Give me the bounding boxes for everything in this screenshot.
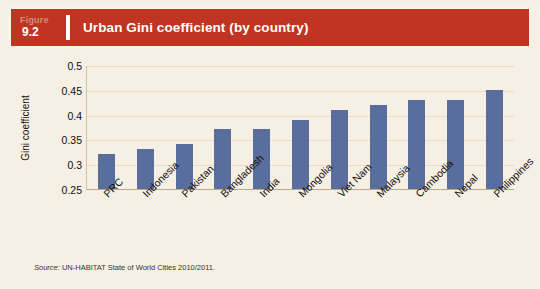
- bar[interactable]: [447, 100, 464, 189]
- figure-title: Urban Gini coefficient (by country): [83, 20, 309, 35]
- figure-banner: Figure 9.2 Urban Gini coefficient (by co…: [11, 9, 529, 46]
- chart-area: Gini coefficient 0.50.450.40.350.30.25 P…: [8, 50, 532, 282]
- bar[interactable]: [370, 105, 387, 189]
- y-axis-tick: 0.25: [52, 184, 82, 196]
- bar-slot: [87, 66, 126, 189]
- y-axis-tick: 0.45: [52, 85, 82, 97]
- figure-number: 9.2: [22, 26, 39, 39]
- x-axis-tick-labels: PRCIndonesiaPakistanBangladeshIndiaMongo…: [86, 191, 540, 261]
- bar[interactable]: [408, 100, 425, 189]
- bar[interactable]: [486, 90, 503, 189]
- y-axis-tick: 0.3: [52, 159, 82, 171]
- source-text: UN-HABITAT State of World Cities 2010/20…: [60, 263, 215, 272]
- bar[interactable]: [331, 110, 348, 189]
- source-note: Source: UN-HABITAT State of World Cities…: [34, 263, 215, 272]
- bar-slot: [475, 66, 514, 189]
- source-lead: Source:: [34, 263, 60, 272]
- banner-divider: [66, 15, 70, 40]
- figure-label: Figure: [20, 16, 49, 25]
- bar[interactable]: [292, 120, 309, 189]
- y-axis-title: Gini coefficient: [20, 66, 34, 190]
- bar-slot: [281, 66, 320, 189]
- y-axis-tick: 0.35: [52, 134, 82, 146]
- figure-banner-wrapper: Figure 9.2 Urban Gini coefficient (by co…: [8, 7, 532, 47]
- figure-number-block: Figure 9.2: [20, 16, 66, 39]
- y-axis-tick-labels: 0.50.450.40.350.30.25: [52, 66, 82, 190]
- y-axis-tick: 0.5: [52, 60, 82, 72]
- y-axis-tick: 0.4: [52, 110, 82, 122]
- plot-area: [86, 66, 514, 190]
- figure-card: Figure 9.2 Urban Gini coefficient (by co…: [0, 0, 540, 289]
